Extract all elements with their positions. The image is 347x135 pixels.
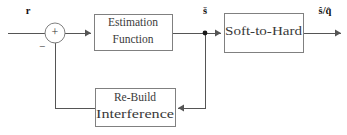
block-diagram: + − Estimation Function Soft-to-Hard Re-… — [0, 0, 347, 135]
arrow-into-estimation-icon — [85, 30, 91, 37]
soft-to-hard-label-line-1: Soft-to-Hard — [225, 25, 302, 37]
estimation-function-label-line-1: Estimation — [108, 16, 158, 28]
rebuild-feedback-wire — [55, 43, 95, 108]
output-signal-label: ŝ/q̂ — [319, 5, 332, 16]
re-build-interference-label-line-2: Interference — [96, 108, 174, 120]
arrow-into-rebuild-icon — [178, 105, 184, 112]
estimation-function-label-line-2: Function — [113, 33, 154, 45]
summing-junction-minus-label: − — [39, 40, 45, 52]
summing-junction-plus-label: + — [52, 25, 59, 39]
re-build-interference-label-line-1: Re-Build — [114, 91, 156, 103]
arrow-into-soft-to-hard-icon — [215, 30, 221, 37]
signal-branch-node — [203, 31, 208, 36]
arrow-output-icon — [335, 30, 341, 37]
block-re-build-interference[interactable]: Re-Build Interference — [95, 88, 175, 126]
summing-junction[interactable]: + − — [39, 23, 65, 52]
branch-down-wire — [178, 33, 205, 108]
soft-estimate-signal-label: š — [203, 5, 207, 16]
block-diagram-canvas: + − Estimation Function Soft-to-Hard Re-… — [0, 0, 347, 135]
input-signal-label: r — [26, 5, 31, 16]
block-estimation-function[interactable]: Estimation Function — [94, 14, 172, 50]
block-soft-to-hard[interactable]: Soft-to-Hard — [224, 13, 303, 52]
